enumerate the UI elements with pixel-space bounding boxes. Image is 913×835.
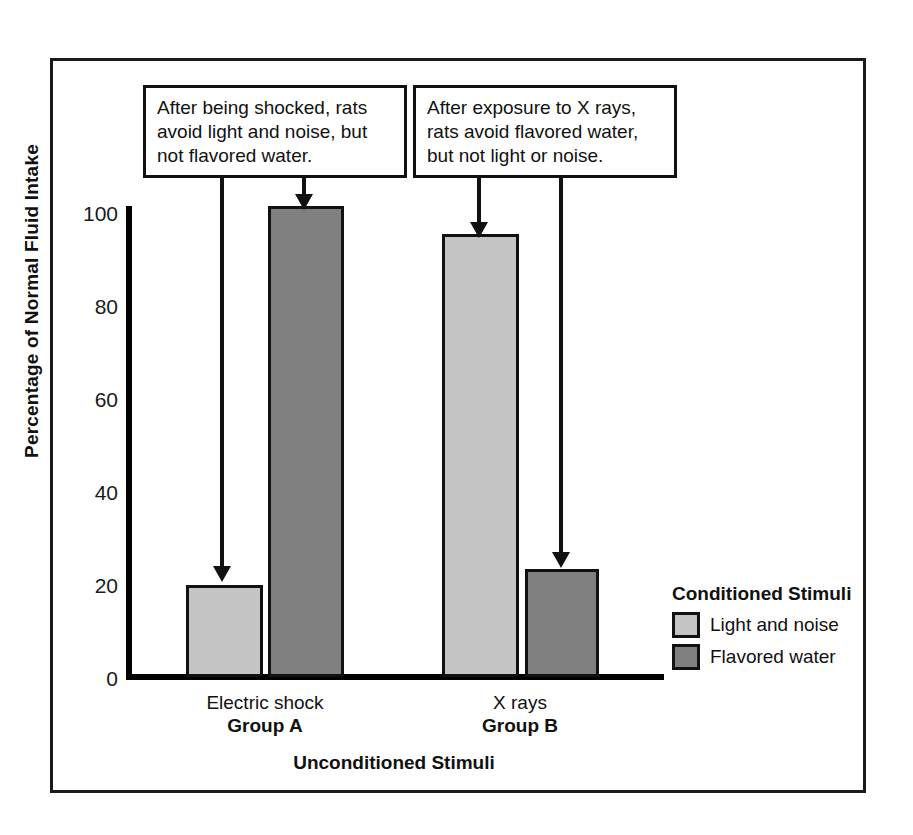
arrow-a-to-light-head-icon	[213, 566, 231, 582]
bar-group-b-flavored-water[interactable]	[525, 569, 599, 677]
legend-label-light-and-noise: Light and noise	[710, 614, 839, 636]
legend-item-flavored-water[interactable]: Flavored water	[672, 644, 862, 670]
legend-label-flavored-water: Flavored water	[710, 646, 836, 668]
bar-group-b-light-and-noise[interactable]	[442, 234, 519, 677]
arrow-b-to-light-head-icon	[470, 222, 488, 238]
annotation-box-group-a: After being shocked, rats avoid light an…	[143, 85, 407, 178]
legend-title: Conditioned Stimuli	[672, 583, 862, 605]
y-tick-60: 60	[60, 389, 118, 410]
x-group-label-a: Electric shock Group A	[145, 692, 385, 739]
annotation-box-group-b: After exposure to X rays, rats avoid fla…	[413, 85, 677, 178]
annotation-a-line-3: not flavored water.	[157, 144, 393, 168]
legend-swatch-light-and-noise	[672, 612, 700, 638]
x-axis-title: Unconditioned Stimuli	[130, 752, 658, 774]
annotation-b-line-2: rats avoid flavored water,	[427, 120, 663, 144]
bar-group-a-flavored-water[interactable]	[268, 206, 344, 677]
y-tick-0: 0	[60, 668, 118, 689]
x-group-b-name: Group B	[400, 714, 640, 739]
legend: Conditioned Stimuli Light and noise Flav…	[672, 583, 862, 670]
annotation-a-line-1: After being shocked, rats	[157, 96, 393, 120]
x-group-a-name: Group A	[145, 714, 385, 739]
legend-item-light-and-noise[interactable]: Light and noise	[672, 612, 862, 638]
annotation-a-line-2: avoid light and noise, but	[157, 120, 393, 144]
y-tick-20: 20	[60, 575, 118, 596]
annotation-b-line-1: After exposure to X rays,	[427, 96, 663, 120]
arrow-b-to-light-stem	[477, 178, 481, 224]
y-tick-40: 40	[60, 482, 118, 503]
bar-group-a-light-and-noise[interactable]	[186, 585, 263, 677]
y-axis-title: Percentage of Normal Fluid Intake	[21, 101, 43, 501]
arrow-b-to-dark-head-icon	[552, 552, 570, 568]
y-tick-80: 80	[60, 296, 118, 317]
arrow-b-to-dark-stem	[559, 178, 563, 554]
x-group-a-unconditioned: Electric shock	[145, 692, 385, 714]
arrow-a-to-dark-head-icon	[295, 194, 313, 210]
figure-root: 100 80 60 40 20 0 Percentage of Normal F…	[0, 0, 913, 835]
annotation-b-line-3: but not light or noise.	[427, 144, 663, 168]
x-group-b-unconditioned: X rays	[400, 692, 640, 714]
arrow-a-to-light-stem	[220, 178, 224, 568]
bars-layer	[132, 206, 664, 677]
y-tick-100: 100	[60, 203, 118, 224]
x-group-label-b: X rays Group B	[400, 692, 640, 739]
legend-swatch-flavored-water	[672, 644, 700, 670]
